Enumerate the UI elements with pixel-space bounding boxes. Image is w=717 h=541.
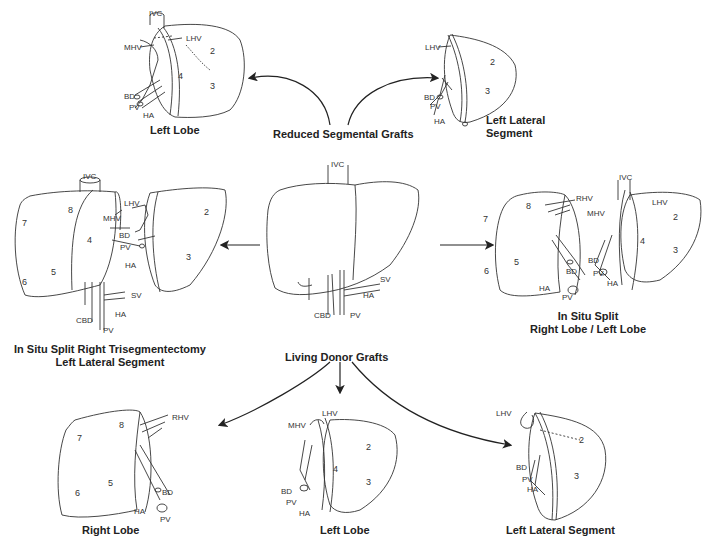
label-bd: BD — [588, 257, 599, 265]
segment-2: 2 — [204, 208, 209, 217]
label-cbd: CBD — [76, 317, 93, 325]
label-bd: BD — [516, 464, 527, 472]
label-ha: HA — [299, 510, 310, 518]
label-pv: PV — [430, 103, 441, 111]
label-lhv: LHV — [124, 200, 140, 208]
label-lhv: LHV — [186, 35, 202, 43]
segment-3: 3 — [673, 246, 678, 255]
segment-7: 7 — [22, 219, 27, 228]
label-mhv: MHV — [124, 44, 142, 52]
label-mhv: MHV — [288, 422, 306, 430]
reduced-left-lateral-drawing — [430, 34, 516, 126]
caption-split-trisegmentectomy: In Situ Split Right Trisegmentectomy Lef… — [14, 343, 206, 369]
segment-3: 3 — [574, 472, 579, 481]
segment-8: 8 — [68, 206, 73, 215]
whole-liver-drawing — [267, 165, 419, 315]
segment-2: 2 — [490, 58, 495, 67]
label-ha: HA — [134, 508, 145, 516]
label-cbd: CBD — [314, 312, 331, 320]
label-sv: SV — [380, 276, 391, 284]
segment-4: 4 — [178, 72, 183, 81]
label-pv: PV — [593, 270, 604, 278]
label-ivc: IVC — [331, 161, 344, 169]
segment-3: 3 — [366, 478, 371, 487]
living-right-lobe-drawing — [58, 410, 170, 517]
segment-6: 6 — [22, 278, 27, 287]
label-mhv: MHV — [587, 210, 605, 218]
label-bd: BD — [281, 488, 292, 496]
reduced-left-lobe-drawing — [134, 13, 244, 118]
label-lhv: LHV — [425, 44, 441, 52]
label-ivc: IVC — [619, 174, 632, 182]
label-rhv: RHV — [576, 195, 593, 203]
caption-line2: Right Lobe / Left Lobe — [530, 323, 646, 336]
label-ha: HA — [539, 285, 550, 293]
caption-line1: In Situ Split — [530, 310, 646, 323]
split-right-left-drawing — [495, 180, 701, 296]
segment-8: 8 — [119, 421, 124, 430]
split-trisegmentectomy-drawing — [15, 177, 226, 330]
segment-2: 2 — [366, 443, 371, 452]
caption-line1: Left Lateral — [486, 114, 545, 127]
label-ha: HA — [115, 311, 126, 319]
label-pv: PV — [286, 499, 297, 507]
label-ivc: IVC — [83, 173, 96, 181]
caption-reduced-left-lateral: Left Lateral Segment — [486, 114, 545, 140]
caption-living-left-lateral: Left Lateral Segment — [506, 524, 615, 537]
segment-7: 7 — [77, 434, 82, 443]
segment-6: 6 — [75, 489, 80, 498]
caption-line2: Left Lateral Segment — [14, 356, 206, 369]
label-lhv: LHV — [496, 410, 512, 418]
segment-2: 2 — [673, 213, 678, 222]
segment-4: 4 — [333, 465, 338, 474]
caption-split-right-left: In Situ Split Right Lobe / Left Lobe — [530, 310, 646, 336]
label-pv: PV — [103, 327, 114, 335]
title-reduced-segmental-grafts: Reduced Segmental Grafts — [273, 128, 414, 141]
segment-3: 3 — [485, 87, 490, 96]
label-ha: HA — [363, 292, 374, 300]
caption-living-left-lobe: Left Lobe — [320, 524, 370, 537]
label-mhv: MHV — [103, 215, 121, 223]
label-bd: BD — [566, 268, 577, 276]
label-pv: PV — [120, 244, 131, 252]
segment-3: 3 — [186, 253, 191, 262]
label-ivc: IVC — [149, 10, 162, 18]
label-bd: BD — [124, 93, 135, 101]
label-pv: PV — [350, 312, 361, 320]
label-bd: BD — [424, 94, 435, 102]
living-left-lobe-drawing — [300, 418, 397, 512]
caption-living-right-lobe: Right Lobe — [82, 524, 139, 537]
label-ha: HA — [434, 118, 445, 126]
segment-7: 7 — [483, 215, 488, 224]
label-pv: PV — [522, 476, 533, 484]
segment-2: 2 — [210, 47, 215, 56]
segment-4: 4 — [640, 237, 645, 246]
caption-line1: In Situ Split Right Trisegmentectomy — [14, 343, 206, 356]
label-ha: HA — [527, 486, 538, 494]
label-lhv: LHV — [322, 410, 338, 418]
segment-5: 5 — [108, 479, 113, 488]
caption-reduced-left-lobe: Left Lobe — [150, 124, 200, 137]
segment-4: 4 — [87, 236, 92, 245]
segment-5: 5 — [514, 258, 519, 267]
label-pv: PV — [129, 104, 140, 112]
segment-8: 8 — [526, 202, 531, 211]
label-ha: HA — [143, 112, 154, 120]
label-rhv: RHV — [172, 414, 189, 422]
label-bd: BD — [119, 232, 130, 240]
segment-6: 6 — [484, 267, 489, 276]
label-pv: PV — [160, 516, 171, 524]
segment-2: 2 — [579, 436, 584, 445]
label-sv: SV — [131, 292, 142, 300]
label-ha: HA — [125, 262, 136, 270]
liver-graft-diagram — [0, 0, 717, 541]
label-ha: HA — [607, 280, 618, 288]
title-living-donor-grafts: Living Donor Grafts — [285, 351, 388, 364]
label-bd: BD — [162, 489, 173, 497]
label-lhv: LHV — [652, 199, 668, 207]
label-pv: PV — [562, 294, 573, 302]
living-left-lateral-drawing — [521, 412, 606, 520]
caption-line2: Segment — [486, 127, 545, 140]
segment-3: 3 — [210, 82, 215, 91]
segment-5: 5 — [51, 268, 56, 277]
